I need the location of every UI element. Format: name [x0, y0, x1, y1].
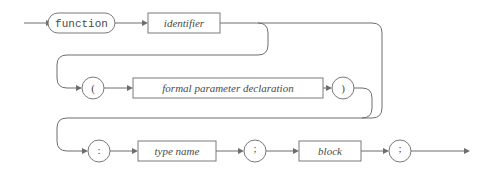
semicolon-2-label: ;: [398, 142, 401, 154]
node-type-name[interactable]: type name: [138, 141, 216, 161]
node-formal-parameter-declaration[interactable]: formal parameter declaration: [133, 78, 323, 98]
railroad-diagram: function identifier ( formal parameter d…: [0, 0, 481, 177]
arrowhead-block: [293, 148, 299, 154]
arrowhead-semicolon-2: [383, 148, 389, 154]
node-block[interactable]: block: [299, 141, 361, 161]
arrowhead-open-paren: [76, 85, 82, 91]
arrowhead-exit: [464, 148, 470, 154]
node-close-paren[interactable]: ): [332, 77, 354, 99]
arrowhead-params: [127, 85, 133, 91]
node-colon[interactable]: :: [88, 140, 110, 162]
arrowhead-typename: [132, 148, 138, 154]
node-semicolon-1[interactable]: ;: [244, 140, 266, 162]
semicolon-1-label: ;: [253, 142, 256, 154]
colon-label: :: [97, 144, 100, 156]
node-identifier[interactable]: identifier: [148, 13, 220, 33]
open-paren-label: (: [91, 82, 95, 95]
function-keyword-label: function: [55, 18, 108, 30]
rail-bypass-to-right-bus: [372, 23, 382, 118]
identifier-label: identifier: [164, 17, 205, 29]
node-open-paren[interactable]: (: [82, 77, 104, 99]
arrowhead-semicolon-1: [238, 148, 244, 154]
formal-parameter-declaration-label: formal parameter declaration: [162, 82, 294, 94]
arrowhead-identifier: [142, 20, 148, 26]
type-name-label: type name: [155, 145, 200, 157]
block-label: block: [318, 145, 343, 157]
arrowhead-close-paren: [326, 85, 332, 91]
arrowhead-colon: [82, 148, 88, 154]
rail-closeparen-out: [354, 88, 372, 118]
node-function-keyword[interactable]: function: [48, 13, 115, 33]
railroad-canvas: function identifier ( formal parameter d…: [0, 0, 481, 177]
node-semicolon-2[interactable]: ;: [389, 140, 411, 162]
close-paren-label: ): [341, 82, 345, 95]
